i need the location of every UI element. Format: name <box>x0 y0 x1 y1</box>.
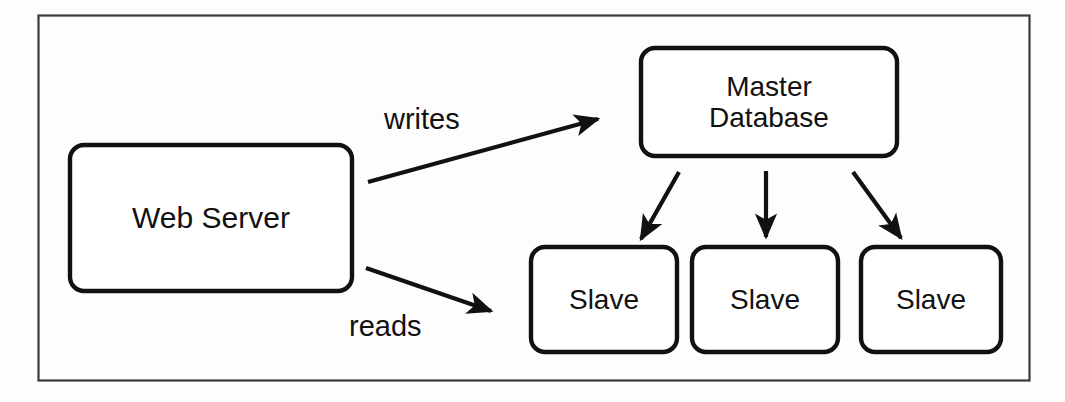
diagram-canvas <box>0 0 1065 402</box>
node-box-slave-1[interactable] <box>531 247 677 352</box>
node-box-web-server[interactable] <box>70 145 352 291</box>
arrow-master-to-slave-1 <box>641 172 679 239</box>
arrow-master-to-slave-3 <box>853 172 901 238</box>
edge-label-reads: reads <box>349 312 422 341</box>
node-shapes <box>70 48 1001 352</box>
arrow-reads <box>366 268 491 311</box>
node-box-slave-2[interactable] <box>692 247 838 352</box>
replication-diagram-figure: Web Server Master Database Slave Slave S… <box>0 0 1065 402</box>
node-box-slave-3[interactable] <box>861 247 1001 352</box>
node-box-master-database[interactable] <box>641 48 897 156</box>
edge-label-writes: writes <box>384 105 460 134</box>
